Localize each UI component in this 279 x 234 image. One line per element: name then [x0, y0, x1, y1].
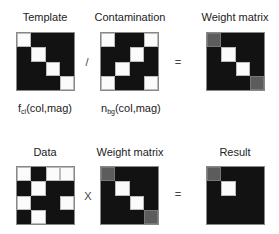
matrix-cell — [207, 62, 221, 76]
matrix-cell — [60, 210, 74, 224]
matrix-cell — [250, 76, 264, 90]
matrix-cell — [17, 196, 31, 210]
matrix-cell — [221, 33, 235, 47]
matrix-cell — [101, 76, 115, 90]
template-label: fcl(col,mag) — [18, 102, 72, 115]
matrix-cell — [60, 181, 74, 195]
matrix-cell — [101, 33, 115, 47]
matrix-cell — [207, 33, 221, 47]
matrix-cell — [46, 47, 60, 61]
matrix-cell — [60, 76, 74, 90]
matrix-cell — [144, 167, 158, 181]
contamination-matrix — [100, 32, 159, 91]
matrix-cell — [221, 196, 235, 210]
weight-matrix-title: Weight matrix — [190, 11, 279, 23]
matrix-cell — [221, 76, 235, 90]
matrix-cell — [250, 47, 264, 61]
matrix-cell — [101, 210, 115, 224]
matrix-cell — [236, 167, 250, 181]
matrix-cell — [144, 76, 158, 90]
matrix-cell — [236, 47, 250, 61]
contamination-label-args: (col,mag) — [115, 102, 161, 114]
bottom-weight-matrix — [100, 166, 159, 225]
matrix-cell — [250, 33, 264, 47]
matrix-cell — [60, 62, 74, 76]
matrix-cell — [46, 196, 60, 210]
matrix-cell — [144, 196, 158, 210]
matrix-cell — [115, 181, 129, 195]
matrix-cell — [31, 181, 45, 195]
matrix-cell — [31, 62, 45, 76]
matrix-cell — [31, 167, 45, 181]
matrix-cell — [115, 33, 129, 47]
matrix-cell — [130, 47, 144, 61]
divide-operator: / — [80, 56, 94, 68]
matrix-cell — [250, 210, 264, 224]
matrix-cell — [46, 210, 60, 224]
matrix-cell — [236, 76, 250, 90]
matrix-cell — [130, 181, 144, 195]
matrix-cell — [221, 62, 235, 76]
matrix-cell — [31, 196, 45, 210]
bottom-weight-matrix-title: Weight matrix — [85, 146, 175, 158]
matrix-cell — [221, 47, 235, 61]
matrix-cell — [221, 210, 235, 224]
matrix-cell — [46, 33, 60, 47]
matrix-cell — [250, 196, 264, 210]
bottom-equals-operator: = — [171, 188, 185, 200]
result-title: Result — [190, 146, 279, 158]
matrix-cell — [130, 210, 144, 224]
matrix-cell — [144, 210, 158, 224]
matrix-cell — [115, 62, 129, 76]
template-title: Template — [0, 11, 90, 23]
matrix-cell — [101, 62, 115, 76]
matrix-cell — [207, 167, 221, 181]
matrix-cell — [207, 181, 221, 195]
matrix-cell — [236, 196, 250, 210]
matrix-cell — [101, 181, 115, 195]
matrix-cell — [236, 210, 250, 224]
matrix-cell — [115, 47, 129, 61]
matrix-cell — [130, 62, 144, 76]
matrix-cell — [46, 62, 60, 76]
matrix-cell — [236, 62, 250, 76]
matrix-cell — [46, 181, 60, 195]
matrix-cell — [144, 62, 158, 76]
matrix-cell — [250, 167, 264, 181]
matrix-cell — [130, 33, 144, 47]
matrix-cell — [101, 196, 115, 210]
matrix-cell — [17, 47, 31, 61]
matrix-cell — [17, 76, 31, 90]
matrix-cell — [207, 47, 221, 61]
contamination-title: Contamination — [85, 11, 175, 23]
matrix-cell — [207, 210, 221, 224]
matrix-cell — [60, 33, 74, 47]
matrix-cell — [236, 181, 250, 195]
multiply-operator: X — [81, 190, 95, 202]
matrix-cell — [115, 167, 129, 181]
matrix-cell — [17, 210, 31, 224]
matrix-cell — [207, 196, 221, 210]
matrix-cell — [31, 210, 45, 224]
matrix-cell — [144, 47, 158, 61]
matrix-cell — [115, 210, 129, 224]
matrix-cell — [207, 76, 221, 90]
matrix-cell — [115, 196, 129, 210]
result-matrix — [206, 166, 265, 225]
matrix-cell — [17, 33, 31, 47]
matrix-cell — [17, 62, 31, 76]
contamination-label: nbg(col,mag) — [101, 102, 161, 115]
matrix-cell — [60, 47, 74, 61]
data-matrix — [16, 166, 75, 225]
matrix-cell — [31, 33, 45, 47]
matrix-cell — [17, 167, 31, 181]
matrix-cell — [60, 167, 74, 181]
matrix-cell — [46, 167, 60, 181]
matrix-cell — [60, 196, 74, 210]
matrix-cell — [130, 167, 144, 181]
matrix-cell — [130, 76, 144, 90]
equals-operator: = — [171, 56, 185, 68]
data-title: Data — [0, 146, 90, 158]
template-label-args: (col,mag) — [26, 102, 72, 114]
matrix-cell — [31, 47, 45, 61]
